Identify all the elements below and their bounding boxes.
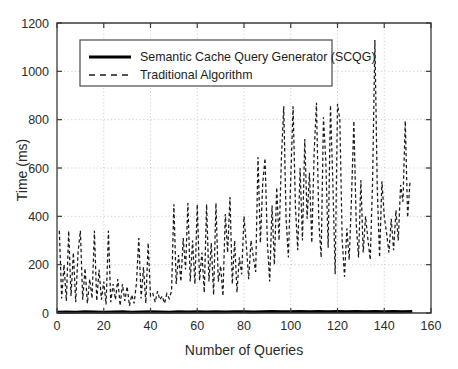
ytick-label-600: 600 [28,162,49,176]
xtick-label-80: 80 [237,319,251,333]
x-axis-title: Number of Queries [185,342,303,358]
ytick-label-1200: 1200 [21,17,49,31]
ytick-label-800: 800 [28,113,49,127]
ytick-label-200: 200 [28,258,49,272]
xtick-label-160: 160 [421,319,442,333]
legend-label-scqg: Semantic Cache Query Generator (SCQG) [140,50,376,64]
legend-label-traditional: Traditional Algorithm [140,68,252,82]
chart-svg: 0204060801001201401600200400600800100012… [0,0,458,369]
xtick-label-0: 0 [54,319,61,333]
xtick-label-60: 60 [190,319,204,333]
xtick-label-100: 100 [280,319,301,333]
xtick-label-120: 120 [327,319,348,333]
chart-legend: Semantic Cache Query Generator (SCQG) Tr… [80,40,376,86]
series-line-scqg [57,312,412,313]
xtick-label-140: 140 [374,319,395,333]
ytick-label-0: 0 [42,307,49,321]
chart-figure: 0204060801001201401600200400600800100012… [0,0,458,369]
ytick-label-1000: 1000 [21,65,49,79]
xtick-label-20: 20 [97,319,111,333]
y-axis-title: Time (ms) [14,139,30,201]
xtick-label-40: 40 [144,319,158,333]
ytick-label-400: 400 [28,210,49,224]
